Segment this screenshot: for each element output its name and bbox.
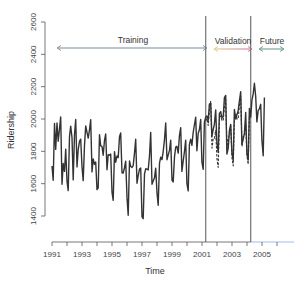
series-layer: [52, 83, 264, 218]
x-tick-label: 1995: [103, 250, 121, 259]
y-tick-label: 2400: [29, 45, 38, 63]
x-tick-label: 1999: [163, 250, 181, 259]
future-label: Future: [260, 36, 285, 46]
x-axis: 19911993199519971999200120032005: [43, 242, 294, 259]
x-axis-title: Time: [145, 266, 165, 276]
x-tick-label: 2001: [193, 250, 211, 259]
ridership-chart: 1400160018002000220024002600 19911993199…: [0, 0, 304, 285]
x-tick-label: 1993: [73, 250, 91, 259]
validation-label: Validation: [215, 36, 252, 46]
future-arrow: [259, 47, 284, 52]
y-tick-label: 2200: [29, 77, 38, 95]
y-axis: 1400160018002000220024002600: [29, 13, 45, 225]
y-tick-label: 1400: [29, 207, 38, 225]
actual-line: [52, 83, 264, 218]
y-tick-label: 2000: [29, 110, 38, 128]
region-arrows: [57, 46, 284, 52]
x-tick-label: 1991: [43, 250, 61, 259]
validation-arrow: [214, 47, 252, 52]
training-arrow: [57, 46, 207, 51]
y-tick-label: 2600: [29, 13, 38, 31]
x-tick-label: 2005: [253, 250, 271, 259]
y-axis-title: Ridership: [6, 111, 16, 149]
x-tick-label: 2003: [223, 250, 241, 259]
training-label: Training: [118, 35, 149, 45]
x-tick-label: 1997: [133, 250, 151, 259]
y-tick-label: 1600: [29, 174, 38, 192]
y-tick-label: 1800: [29, 142, 38, 160]
